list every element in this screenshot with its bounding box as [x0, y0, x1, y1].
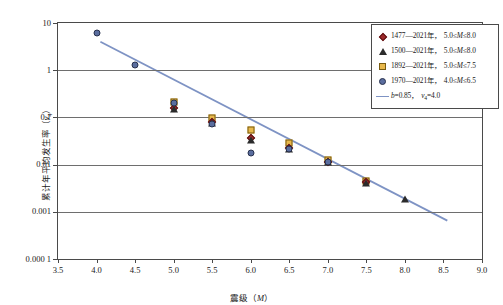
legend-label-3: 1970—2021年，4.0≤M≤6.5 — [389, 76, 476, 87]
x-tick-mark — [366, 259, 367, 263]
x-tick-mark — [443, 259, 444, 263]
x-tick-mark — [405, 259, 406, 263]
x-axis-title: 震级（M） — [0, 291, 503, 303]
x-tick-mark — [135, 259, 136, 263]
x-tick-mark — [58, 259, 59, 263]
x-tick-label: 8.0 — [400, 265, 411, 275]
x-tick-label: 9.0 — [477, 265, 488, 275]
x-tick-label: 7.5 — [361, 265, 372, 275]
y-tick-label: 0.01 — [5, 159, 51, 169]
y-tick-label: 10 — [5, 18, 51, 28]
data-point-triangle — [170, 106, 178, 113]
y-tick-label: 0.1 — [5, 112, 51, 122]
x-tick-mark — [251, 259, 252, 263]
data-point-circle — [209, 121, 216, 128]
data-point-square — [247, 126, 254, 133]
x-tick-label: 6.5 — [284, 265, 295, 275]
x-tick-label: 5.0 — [168, 265, 179, 275]
x-tick-label: 3.5 — [53, 265, 64, 275]
legend-label-1: 1500—2021年，5.0≤M≤8.0 — [389, 46, 476, 57]
data-point-circle — [132, 61, 139, 68]
x-tick-label: 7.0 — [323, 265, 334, 275]
legend-item-0[interactable]: 1477—2021年，5.0≤M≤8.0 — [376, 29, 495, 44]
legend-item-2[interactable]: 1892—2021年，5.0≤M≤7.5 — [376, 59, 495, 74]
x-tick-label: 8.5 — [438, 265, 449, 275]
earthquake-recurrence-chart: 累计年平均发生率（ν4） 1010.10.010.0010.000 13.54.… — [0, 0, 503, 305]
data-point-triangle — [247, 136, 255, 143]
gridline — [58, 165, 482, 166]
x-tick-mark — [174, 259, 175, 263]
legend-label-2: 1892—2021年，5.0≤M≤7.5 — [389, 61, 476, 72]
legend-label-0: 1477—2021年，5.0≤M≤8.0 — [389, 31, 476, 42]
data-point-circle — [93, 30, 100, 37]
legend: 1477—2021年，5.0≤M≤8.0 1500—2021年，5.0≤M≤8.… — [371, 24, 499, 109]
x-tick-mark — [97, 259, 98, 263]
data-point-circle — [170, 99, 177, 106]
y-tick-mark — [53, 212, 58, 213]
y-tick-label: 0.000 1 — [5, 254, 51, 264]
x-tick-mark — [482, 259, 483, 263]
data-point-circle — [286, 145, 293, 152]
line-swatch-icon — [376, 90, 389, 103]
data-point-triangle — [401, 195, 409, 202]
x-tick-label: 5.5 — [207, 265, 218, 275]
data-point-triangle — [362, 180, 370, 187]
x-tick-label: 4.0 — [91, 265, 102, 275]
square-marker-icon — [376, 60, 389, 73]
gridline — [58, 117, 482, 118]
triangle-marker-icon — [376, 45, 389, 58]
y-tick-mark — [53, 165, 58, 166]
gridline — [58, 212, 482, 213]
y-tick-label: 1 — [5, 65, 51, 75]
data-point-circle — [324, 159, 331, 166]
legend-item-3[interactable]: 1970—2021年，4.0≤M≤6.5 — [376, 74, 495, 89]
x-tick-label: 4.5 — [130, 265, 141, 275]
y-tick-mark — [53, 23, 58, 24]
x-tick-mark — [212, 259, 213, 263]
legend-label-fitline: bb=0.85，=0.85，ν4=4.0 — [389, 91, 440, 103]
diamond-marker-icon — [376, 30, 389, 43]
x-tick-label: 6.0 — [245, 265, 256, 275]
y-tick-mark — [53, 70, 58, 71]
circle-marker-icon — [376, 75, 389, 88]
legend-item-1[interactable]: 1500—2021年，5.0≤M≤8.0 — [376, 44, 495, 59]
y-tick-label: 0.001 — [5, 206, 51, 216]
x-tick-mark — [289, 259, 290, 263]
data-point-circle — [247, 150, 254, 157]
legend-item-fitline[interactable]: bb=0.85，=0.85，ν4=4.0 — [376, 89, 495, 104]
y-tick-mark — [53, 117, 58, 118]
x-tick-mark — [328, 259, 329, 263]
